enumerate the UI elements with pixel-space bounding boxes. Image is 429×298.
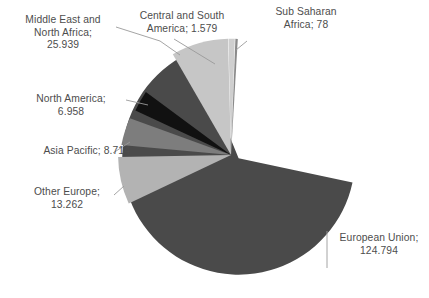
slice-label-other-europe: Other Europe; 13.262	[4, 186, 130, 211]
pie-chart: Middle East and North Africa; 25.939 Cen…	[0, 0, 429, 298]
pie-slices	[118, 39, 352, 275]
slice-label-asia-pacific: Asia Pacific; 8.714	[0, 145, 130, 158]
slice-label-european-union: European Union; 124.794	[330, 232, 428, 257]
slice-label-central-south-america: Central and South America; 1.579	[118, 10, 246, 35]
leader-line-sub-saharan-africa	[236, 41, 247, 50]
slice-label-sub-saharan-africa: Sub Saharan Africa; 78	[250, 6, 362, 31]
slice-label-middle-east-north-africa: Middle East and North Africa; 25.939	[2, 14, 124, 52]
slice-label-north-america: North America; 6.958	[12, 93, 130, 118]
